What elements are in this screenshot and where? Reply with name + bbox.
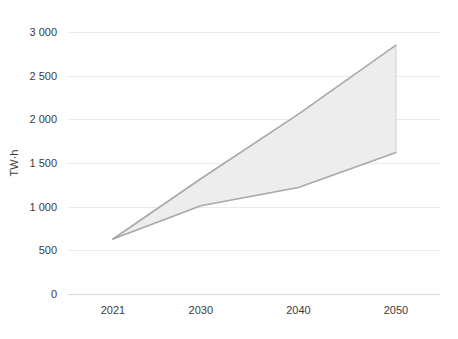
x-axis-tick-label: 2050: [384, 304, 408, 316]
y-axis-tick-label: 0: [51, 288, 57, 300]
y-axis-tick-label: 500: [39, 244, 57, 256]
y-axis-tick-label: 2 500: [29, 70, 57, 82]
area-range-chart: 05001 0001 5002 0002 5003 000 2021203020…: [0, 0, 458, 339]
chart-container: 05001 0001 5002 0002 5003 000 2021203020…: [0, 0, 458, 339]
x-axis-tick-label: 2030: [189, 304, 213, 316]
y-axis-tick-label: 1 500: [29, 157, 57, 169]
x-axis-tick-label: 2040: [286, 304, 310, 316]
x-axis-tick-label: 2021: [101, 304, 125, 316]
y-axis-tick-label: 3 000: [29, 26, 57, 38]
y-axis-title: TW·h: [8, 150, 20, 177]
y-axis-tick-label: 1 000: [29, 201, 57, 213]
y-axis-tick-label: 2 000: [29, 113, 57, 125]
